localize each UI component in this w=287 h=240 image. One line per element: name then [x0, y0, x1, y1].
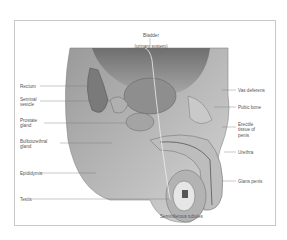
title-label: Bladder (urinary system) — [116, 28, 186, 55]
prostate — [126, 113, 154, 131]
label-seminal-vesicle: Seminal vesicle — [20, 97, 37, 108]
label-urethra: Urethra — [238, 150, 253, 155]
label-vas-deferens: Vas deferens — [238, 88, 265, 93]
label-prostate-gland: Prostate gland — [20, 118, 37, 129]
label-erectile-tissue: Erectile tissue of penis — [238, 122, 255, 138]
label-rectum: Rectum — [20, 84, 36, 89]
label-testis: Testis — [20, 197, 32, 202]
bladder-subtitle: (urinary system) — [116, 44, 186, 49]
label-epididymis: Epididymis — [20, 171, 42, 176]
label-seminiferous-tubules: Seminiferous tubules — [160, 214, 203, 219]
label-pubic-bone: Pubic bone — [238, 105, 261, 110]
bladder-body — [124, 78, 176, 114]
tubules — [182, 190, 188, 198]
bladder-title: Bladder — [116, 33, 186, 38]
label-glans-penis: Glans penis — [238, 179, 262, 184]
label-bulbourethral-gland: Bulbourethral gland — [20, 139, 47, 150]
